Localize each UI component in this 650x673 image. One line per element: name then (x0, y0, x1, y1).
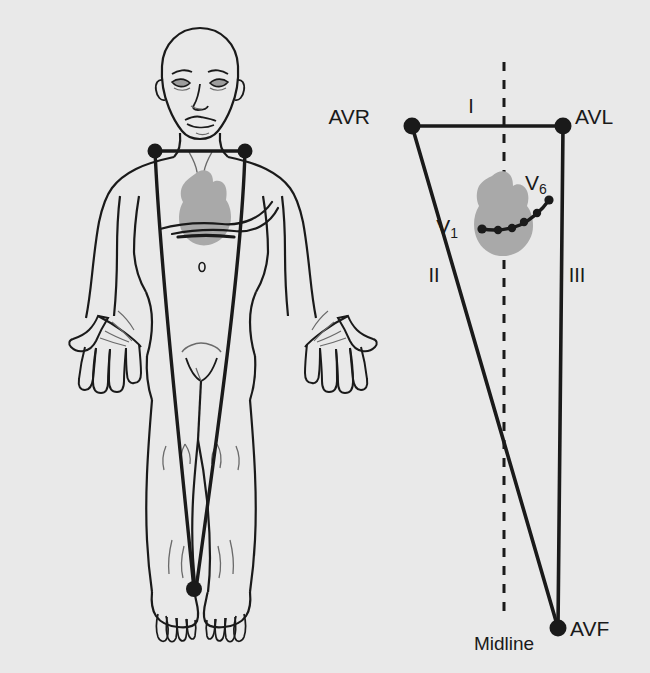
avr-vertex-dot (404, 118, 421, 135)
figure-artwork (0, 0, 650, 673)
avl-label: AVL (575, 106, 613, 127)
lead-III-side (558, 126, 563, 628)
lead-I-label: I (468, 96, 474, 116)
chest-lead-v6-letter: V (525, 171, 539, 194)
chest-lead-dot-v4 (520, 218, 528, 226)
chest-lead-v6-subscript: 6 (539, 181, 547, 197)
right-shoulder-electrode (148, 144, 163, 159)
midline-label: Midline (474, 634, 534, 653)
chest-lead-dot-v2 (494, 226, 502, 234)
chest-lead-v6-label: V6 (525, 172, 547, 196)
avf-label: AVF (570, 618, 609, 639)
chest-lead-v1-subscript: 1 (450, 225, 458, 241)
avl-vertex-dot (555, 118, 572, 135)
avf-vertex-dot (550, 620, 567, 637)
lead-III-label: III (569, 265, 586, 285)
left-shoulder-electrode (238, 144, 253, 159)
lead-II-label: II (428, 265, 439, 285)
chest-lead-v1-label: V1 (436, 216, 458, 240)
chest-lead-dot-v5 (533, 209, 541, 217)
chest-lead-dot-v1 (477, 224, 486, 233)
chest-lead-v1-letter: V (436, 215, 450, 238)
chest-lead-dot-v3 (508, 224, 516, 232)
left-ankle-electrode (186, 581, 202, 597)
ecg-lead-placement-figure: AVR AVL AVF I II III Midline V1 V6 (0, 0, 650, 673)
avr-label: AVR (328, 106, 370, 127)
